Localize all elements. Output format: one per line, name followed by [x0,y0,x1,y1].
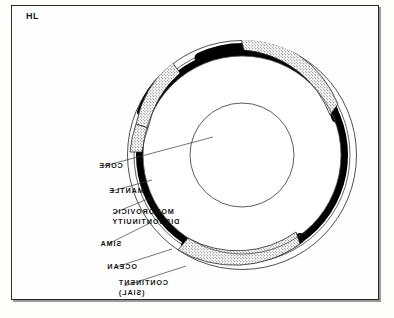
figure-page: HL [0,0,394,318]
core-circle [190,103,294,207]
label-moho-line-1: MOHOROVICIC [112,207,180,217]
label-continent-line-1: CONTINENT [118,278,168,288]
label-mantle: MANTLE [108,186,143,195]
label-ocean: OCEAN [106,262,136,271]
label-sima: SIMA [100,239,122,248]
label-continent-sial: CONTINENT (SIAL) [118,278,168,297]
label-core: CORE [98,161,122,170]
label-mohorovicic-discontinuity: MOHOROVICIC DISCONTINUITY [112,207,180,226]
label-moho-line-2: DISCONTINUITY [112,217,180,227]
earth-cross-section-diagram [0,0,394,318]
label-continent-line-2: (SIAL) [118,288,168,298]
